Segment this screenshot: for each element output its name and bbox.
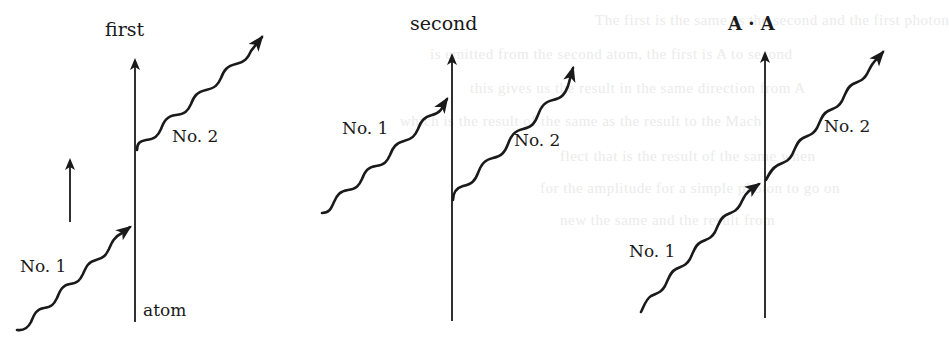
photon-1-wave-first	[17, 227, 130, 330]
panel-title-amplitude-product: A · A	[728, 15, 775, 33]
photon-label-no1-product: No. 1	[629, 243, 675, 260]
photon-1-wave-second	[322, 99, 447, 213]
panel-second	[322, 55, 573, 321]
photon-label-no1-first: No. 1	[20, 258, 66, 275]
photon-label-no2-second: No. 2	[514, 132, 560, 149]
atom-label: atom	[143, 302, 186, 319]
panel-title-second: second	[410, 14, 477, 33]
photon-label-no2-first: No. 2	[172, 128, 218, 145]
panel-title-first: first	[105, 20, 144, 39]
photon-label-no1-second: No. 1	[342, 120, 388, 137]
photon-label-no2-product: No. 2	[824, 118, 870, 135]
panel-first	[17, 37, 262, 330]
panel-amplitude-product	[641, 52, 883, 318]
